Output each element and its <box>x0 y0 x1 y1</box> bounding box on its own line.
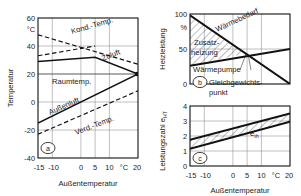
chart-panel-c: 4 3 2 1 0 Leistungszahl eHT eth -15 -10 … <box>150 96 301 196</box>
ytick-c-3: 1 <box>183 147 187 156</box>
yunit-b: % <box>180 23 187 32</box>
xtick-a-5: 20 <box>133 163 141 172</box>
yaxis-title-c-group: Leistungszahl eHT <box>158 110 168 171</box>
label-raumtemp: Raumtemp. <box>52 77 91 86</box>
ytick-a-5: -40 <box>24 154 35 163</box>
xaxis-title-c: Außentemperatur <box>210 186 270 195</box>
label-verd-temp: Verd.-Temp. <box>73 114 114 137</box>
ytick-c-0: 4 <box>183 102 187 111</box>
yaxis-title-a: Temperatur <box>6 68 15 107</box>
ytick-b-2: 0 <box>183 80 187 89</box>
panel-marker-a-label: a <box>46 145 50 152</box>
xunit-c: °C <box>272 171 281 180</box>
label-zuluft: Zuluft <box>100 47 122 63</box>
panel-marker-c: c <box>193 152 207 163</box>
panel-marker-c-label: c <box>198 155 202 162</box>
label-gleichgewichtspunkt-1: Gleichgewichts- <box>209 78 263 87</box>
panel-marker-b-label: b <box>198 79 202 86</box>
label-eth-sub: th <box>254 133 258 139</box>
panel-marker-b: b <box>193 76 207 87</box>
chart-panel-a: 60 40 20 0 -20 -40 °C Temperatur -15 -10… <box>0 0 150 196</box>
xaxis-title-a: Außentemperatur <box>58 179 118 188</box>
ytick-labels-b: 100 50 0 <box>175 10 187 89</box>
ytick-c-2: 2 <box>183 132 187 141</box>
xtick-c-1: -10 <box>200 171 211 180</box>
xtick-a-3: 5 <box>93 163 97 172</box>
ytick-a-4: -20 <box>24 126 35 135</box>
yaxis-title-c-sub: HT <box>162 110 168 118</box>
ytick-labels-a: 60 40 20 0 -20 -40 <box>24 14 35 163</box>
panel-marker-a: a <box>41 142 55 153</box>
xtick-a-1: -10 <box>48 163 59 172</box>
xtick-a-0: -15 <box>34 163 45 172</box>
region-streuband <box>190 114 290 149</box>
xtick-labels-c: -15 -10 0 5 10 °C 20 <box>186 171 293 180</box>
svg-text:Leistungszahl eHT: Leistungszahl eHT <box>158 110 168 171</box>
ytick-c-1: 3 <box>183 117 187 126</box>
xunit-a: °C <box>120 163 129 172</box>
chart-panel-b: 100 50 0 % Heizleistung Wärmebedarf Zusa… <box>150 0 301 100</box>
xtick-labels-a: -15 -10 0 5 10 °C 20 <box>34 163 141 172</box>
ytick-b-1: 50 <box>179 45 187 54</box>
label-waermepumpe: Wärmepumpe <box>193 65 241 74</box>
ytick-a-2: 20 <box>27 70 35 79</box>
yaxis-title-c: Leistungszahl e <box>158 118 167 171</box>
label-waermebedarf: Wärmebedarf <box>214 6 260 34</box>
xtick-c-2: 0 <box>231 171 235 180</box>
yunit-a: °C <box>27 25 36 34</box>
xtick-c-5: 20 <box>285 171 293 180</box>
ytick-b-0: 100 <box>175 10 187 19</box>
figure-root: 60 40 20 0 -20 -40 °C Temperatur -15 -10… <box>0 0 301 196</box>
ytick-a-3: 0 <box>31 98 35 107</box>
label-zusatz-2: heizung <box>191 48 218 57</box>
yaxis-title-b: Heizleistung <box>158 28 167 69</box>
xtick-c-0: -15 <box>186 171 197 180</box>
xtick-a-2: 0 <box>79 163 83 172</box>
xtick-c-3: 5 <box>245 171 249 180</box>
label-zusatz-1: Zusatz- <box>194 38 220 47</box>
ytick-a-0: 60 <box>27 14 35 23</box>
xtick-c-4: 10 <box>257 171 265 180</box>
ytick-a-1: 40 <box>27 42 35 51</box>
curve-kond-temp-branch <box>38 46 95 56</box>
ytick-c-4: 0 <box>183 162 187 171</box>
xtick-a-4: 10 <box>105 163 113 172</box>
ytick-labels-c: 4 3 2 1 0 <box>183 102 187 171</box>
